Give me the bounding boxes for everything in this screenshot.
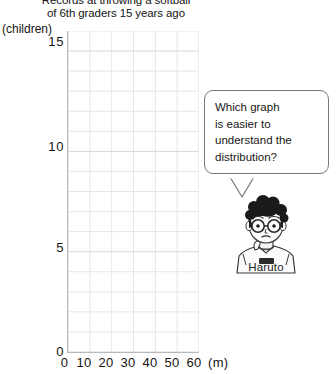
x-tick-label-20: 20 xyxy=(95,354,117,372)
speech-bubble-line-1: Which graph xyxy=(215,99,319,116)
speech-bubble-line-2: is easier to xyxy=(215,116,319,133)
x-tick-label-60: 60 xyxy=(183,354,205,372)
speech-bubble-line-4: distribution? xyxy=(215,149,319,166)
x-tick-label-50: 50 xyxy=(161,354,183,372)
x-tick-label-10: 10 xyxy=(73,354,95,372)
y-axis-labels: 15 10 5 0 xyxy=(0,0,64,374)
y-tick-label-5: 5 xyxy=(2,241,64,254)
x-tick-label-40: 40 xyxy=(139,354,161,372)
x-axis-unit-label: (m) xyxy=(208,354,228,372)
x-axis-line xyxy=(67,352,199,353)
y-tick-label-15: 15 xyxy=(2,35,64,48)
x-tick-label-0: 0 xyxy=(56,354,73,372)
character-name-label: Haruto xyxy=(216,260,316,274)
x-tick-label-30: 30 xyxy=(117,354,139,372)
y-tick-label-0: 0 xyxy=(2,345,64,358)
y-tick-label-10: 10 xyxy=(2,140,64,153)
plot-area xyxy=(68,31,199,352)
grid-canvas xyxy=(68,31,199,352)
y-axis-line xyxy=(67,31,68,353)
x-axis-labels: 0102030405060(m) xyxy=(56,354,256,374)
speech-bubble-text: Which graph is easier to understand the … xyxy=(215,99,319,165)
speech-bubble-line-3: understand the xyxy=(215,132,319,149)
speech-bubble: Which graph is easier to understand the … xyxy=(204,90,329,174)
